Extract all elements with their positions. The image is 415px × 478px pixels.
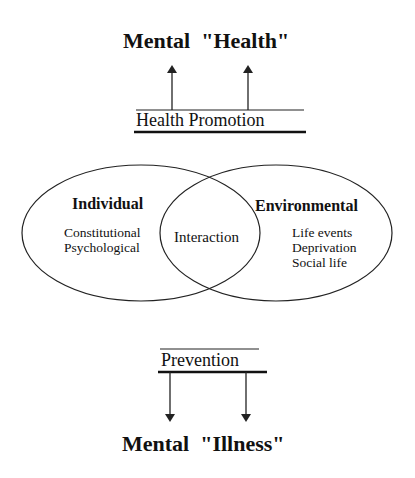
individual-heading: Individual (72, 195, 143, 213)
individual-items: Constitutional Psychological (64, 225, 141, 255)
title-word-mental: Mental (122, 431, 189, 456)
mental-health-title: Mental "Health" (123, 28, 289, 54)
individual-item: Psychological (64, 240, 141, 255)
environmental-item: Deprivation (292, 240, 356, 255)
health-promotion-label: Health Promotion (136, 110, 265, 131)
title-word-illness: "Illness" (200, 431, 284, 456)
environmental-item: Life events (292, 225, 356, 240)
individual-item: Constitutional (64, 225, 141, 240)
environmental-items: Life events Deprivation Social life (292, 225, 356, 270)
interaction-label: Interaction (174, 229, 239, 246)
prevention-label: Prevention (161, 350, 239, 371)
title-word-health: "Health" (201, 28, 289, 53)
environmental-heading: Environmental (255, 197, 358, 215)
title-word-mental: Mental (123, 28, 190, 53)
mental-illness-title: Mental "Illness" (122, 431, 285, 457)
environmental-item: Social life (292, 255, 356, 270)
